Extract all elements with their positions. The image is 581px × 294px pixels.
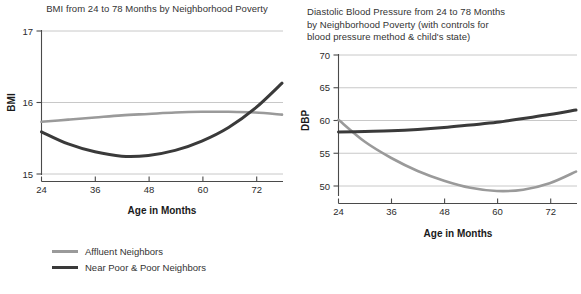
bmi-chart-title: BMI from 24 to 78 Months by Neighborhood… (28, 3, 286, 16)
bmi-xtick-48: 48 (144, 184, 155, 195)
dbp-near-poor-line (339, 110, 577, 132)
bmi-y-axis-title: BMI (6, 93, 17, 112)
dbp-ytick-70: 70 (319, 50, 330, 61)
affluent-line-swatch-icon (52, 250, 78, 253)
dbp-plot-area: 70 65 60 55 50 DBP 24 36 4 (295, 49, 581, 221)
bmi-x-axis: 24 36 48 60 72 Age in Months (36, 177, 283, 217)
near-poor-line-swatch-icon (52, 266, 78, 269)
figure-row: BMI from 24 to 78 Months by Neighborhood… (0, 0, 581, 294)
bmi-plot-area: 17 16 15 BMI 24 36 48 60 7 (0, 24, 290, 199)
dbp-chart-title-line-1: Diastolic Blood Pressure from 24 to 78 M… (307, 6, 557, 19)
dbp-x-axis: 24 36 48 60 72 Age in Months (333, 199, 577, 240)
dbp-gridlines (338, 55, 577, 186)
bmi-x-axis-title: Age in Months (128, 205, 197, 216)
bmi-y-axis: 17 16 15 BMI (6, 26, 42, 180)
dbp-xtick-24: 24 (333, 206, 344, 217)
dbp-chart-panel: Diastolic Blood Pressure from 24 to 78 M… (290, 0, 581, 294)
bmi-legend-item-affluent: Affluent Neighbors (52, 243, 206, 259)
bmi-xtick-60: 60 (198, 184, 209, 195)
bmi-ytick-17: 17 (22, 26, 33, 37)
bmi-ytick-15: 15 (22, 169, 33, 180)
dbp-x-axis-title: Age in Months (424, 228, 493, 239)
dbp-ytick-60: 60 (319, 115, 330, 126)
bmi-legend-label-near-poor: Near Poor & Poor Neighbors (85, 261, 206, 274)
dbp-xtick-36: 36 (386, 206, 397, 217)
dbp-chart-title-line-2: by Neighborhood Poverty (with controls f… (307, 19, 557, 32)
bmi-ytick-16: 16 (22, 97, 33, 108)
bmi-chart-panel: BMI from 24 to 78 Months by Neighborhood… (0, 0, 290, 294)
bmi-legend: Affluent Neighbors Near Poor & Poor Neig… (52, 243, 206, 275)
dbp-ytick-50: 50 (319, 181, 330, 192)
dbp-ytick-55: 55 (319, 148, 330, 159)
bmi-legend-label-affluent: Affluent Neighbors (85, 245, 163, 258)
bmi-plot-svg: 17 16 15 BMI 24 36 48 60 7 (0, 24, 290, 199)
bmi-legend-item-near-poor: Near Poor & Poor Neighbors (52, 259, 206, 275)
bmi-xtick-24: 24 (36, 184, 47, 195)
dbp-ytick-65: 65 (319, 82, 330, 93)
bmi-xtick-72: 72 (251, 184, 262, 195)
dbp-chart-title-line-3: blood pressure method & child's state) (307, 31, 557, 44)
bmi-series-group (42, 83, 283, 156)
dbp-xtick-48: 48 (439, 206, 450, 217)
dbp-plot-svg: 70 65 60 55 50 DBP 24 36 4 (295, 49, 581, 221)
dbp-xtick-60: 60 (492, 206, 503, 217)
dbp-series-group (339, 110, 577, 191)
dbp-xtick-72: 72 (545, 206, 556, 217)
dbp-chart-title: Diastolic Blood Pressure from 24 to 78 M… (307, 6, 557, 44)
dbp-y-axis-title: DBP (300, 110, 311, 131)
bmi-xtick-36: 36 (90, 184, 101, 195)
dbp-y-axis: 70 65 60 55 50 DBP (300, 50, 339, 197)
